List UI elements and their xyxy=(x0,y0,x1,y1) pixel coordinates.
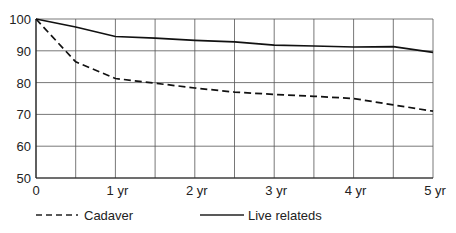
legend: Cadaver Live relateds xyxy=(36,208,322,223)
legend-live-label: Live relateds xyxy=(248,208,322,223)
x-tick-label: 1 yr xyxy=(107,183,129,198)
x-tick-label: 0 xyxy=(32,183,39,198)
x-axis-ticks: 01 yr2 yr3 yr4 yr5 yr xyxy=(32,183,446,198)
x-tick-label: 4 yr xyxy=(345,183,367,198)
grid xyxy=(36,19,433,178)
y-tick-label: 90 xyxy=(17,44,31,59)
y-tick-label: 80 xyxy=(17,76,31,91)
x-tick-label: 2 yr xyxy=(186,183,208,198)
survival-line-chart: 1009080706050 01 yr2 yr3 yr4 yr5 yr Cada… xyxy=(0,0,456,233)
x-tick-label: 3 yr xyxy=(265,183,287,198)
y-tick-label: 70 xyxy=(17,107,31,122)
y-tick-label: 100 xyxy=(9,12,31,27)
y-tick-label: 50 xyxy=(17,171,31,186)
y-tick-label: 60 xyxy=(17,139,31,154)
x-tick-label: 5 yr xyxy=(424,183,446,198)
y-axis-ticks: 1009080706050 xyxy=(9,12,31,186)
legend-cadaver-label: Cadaver xyxy=(84,208,134,223)
